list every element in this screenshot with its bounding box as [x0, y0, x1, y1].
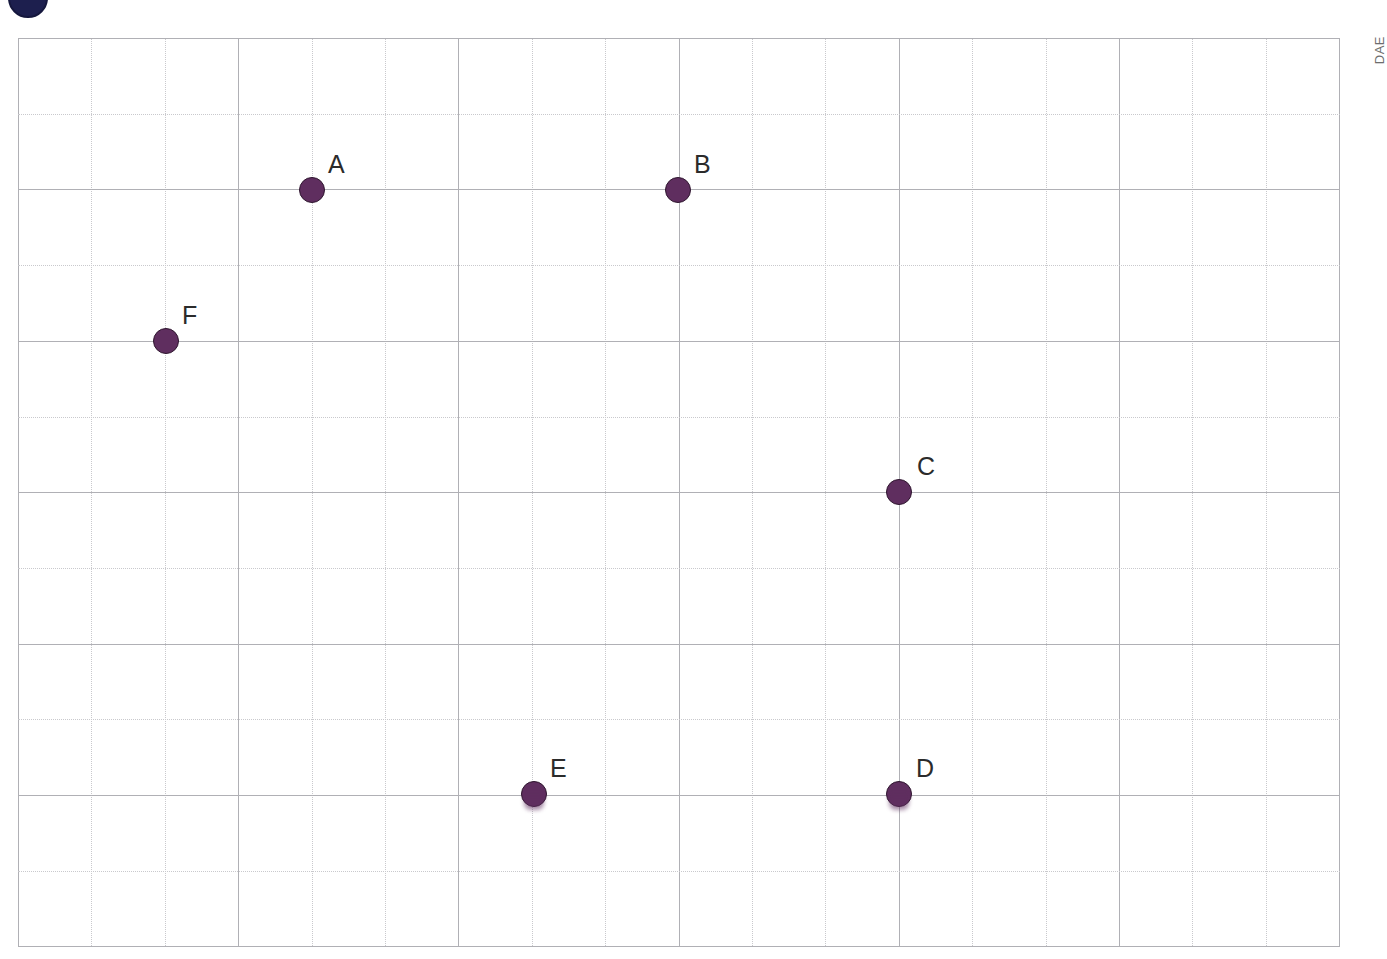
data-point-e[interactable]	[521, 781, 547, 807]
data-point-label-f: F	[182, 303, 197, 328]
grid-line-horizontal-major	[18, 795, 1340, 796]
grid-line-horizontal-minor	[18, 568, 1340, 569]
data-point-label-b: B	[694, 152, 711, 177]
data-point-a[interactable]	[299, 177, 325, 203]
grid-line-horizontal-major	[18, 38, 1340, 39]
data-point-c[interactable]	[886, 479, 912, 505]
side-caption: DAE	[1372, 36, 1387, 64]
partial-navy-circle-icon	[8, 0, 48, 18]
data-point-b[interactable]	[665, 177, 691, 203]
grid-line-horizontal-minor	[18, 265, 1340, 266]
data-point-label-e: E	[550, 756, 567, 781]
grid-line-horizontal-major	[18, 644, 1340, 645]
grid-line-horizontal-minor	[18, 417, 1340, 418]
grid-line-horizontal-major	[18, 492, 1340, 493]
coordinate-grid	[18, 38, 1340, 946]
data-point-label-d: D	[916, 756, 934, 781]
data-point-label-c: C	[917, 454, 935, 479]
grid-line-horizontal-minor	[18, 871, 1340, 872]
grid-line-horizontal-major	[18, 946, 1340, 947]
grid-line-horizontal-minor	[18, 719, 1340, 720]
data-point-d[interactable]	[886, 781, 912, 807]
data-point-f[interactable]	[153, 328, 179, 354]
grid-line-horizontal-minor	[18, 114, 1340, 115]
data-point-label-a: A	[328, 152, 345, 177]
grid-line-horizontal-major	[18, 341, 1340, 342]
